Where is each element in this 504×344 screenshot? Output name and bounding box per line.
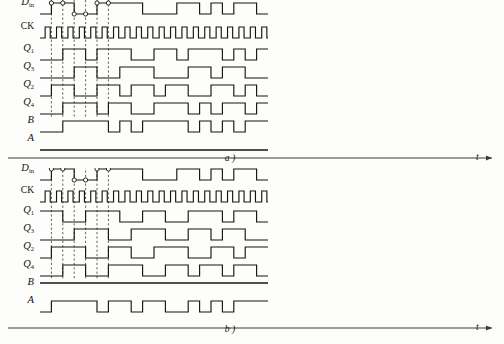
row-label-q2: Q2: [0, 79, 34, 90]
sample-marker: [106, 168, 110, 171]
sample-marker: [84, 178, 88, 182]
row-label-ck: CK: [0, 21, 34, 31]
row-label-d-in: Din: [0, 163, 34, 174]
time-axis-arrow: [486, 325, 492, 330]
row-label-q3: Q3: [0, 61, 34, 72]
row-label-q3: Q3: [0, 223, 34, 234]
panel-b-waveforms: [0, 168, 504, 344]
panel-b-time-axis-label: t: [476, 322, 479, 332]
waveform-b: [40, 121, 268, 132]
waveform-q4: [40, 265, 268, 276]
row-label-a: A: [0, 133, 34, 143]
waveform-q3: [40, 67, 268, 78]
time-axis-arrow: [486, 155, 492, 160]
row-label-q4: Q4: [0, 97, 34, 108]
sample-marker: [61, 168, 65, 171]
sample-marker: [95, 1, 99, 5]
sample-marker: [95, 168, 99, 171]
panel-a-time-axis-label: t: [476, 152, 479, 162]
row-label-q2: Q2: [0, 241, 34, 252]
sample-marker: [49, 168, 53, 171]
panel-a: DinCKQ1Q3Q2Q4BA a ) t: [0, 0, 504, 172]
panel-b-caption: b ): [200, 324, 260, 334]
row-label-b: B: [0, 277, 34, 287]
panel-a-caption: a ): [200, 153, 260, 163]
row-label-ck: CK: [0, 185, 34, 195]
row-label-q4: Q4: [0, 259, 34, 270]
sample-marker: [61, 1, 65, 5]
waveform-q3: [40, 229, 268, 240]
sample-marker: [84, 12, 88, 16]
timing-diagram-figure: DinCKQ1Q3Q2Q4BA a ) t DinCKQ1Q3Q2Q4BA b …: [0, 0, 504, 344]
row-label-q1: Q1: [0, 205, 34, 216]
sample-marker: [72, 12, 76, 16]
row-label-a: A: [0, 295, 34, 305]
sample-marker: [49, 1, 53, 5]
row-label-q1: Q1: [0, 43, 34, 54]
sample-marker: [106, 1, 110, 5]
waveform-a: [40, 301, 268, 312]
waveform-q2: [40, 247, 268, 258]
panel-b: DinCKQ1Q3Q2Q4BA b ) t: [0, 168, 504, 344]
panel-a-waveforms: [0, 0, 504, 172]
row-label-d-in: Din: [0, 0, 34, 8]
waveform-q4: [40, 103, 268, 114]
sample-marker: [72, 178, 76, 182]
waveform-q2: [40, 85, 268, 96]
row-label-b: B: [0, 115, 34, 125]
